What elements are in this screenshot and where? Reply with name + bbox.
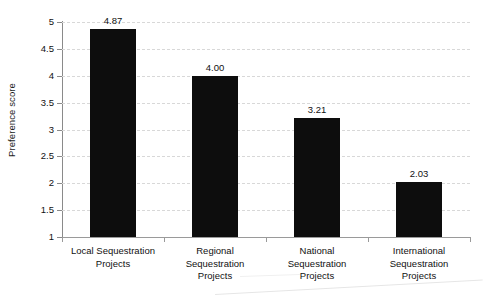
bar-value-label: 4.00 <box>185 62 245 73</box>
y-tick-label: 2 <box>18 177 54 188</box>
x-category-label-line: Projects <box>266 270 368 283</box>
x-category-label-line: International <box>368 245 470 258</box>
bar-value-label: 4.87 <box>83 15 143 26</box>
plot-area: 4.874.003.212.03 <box>62 22 470 237</box>
x-category-label: InternationalSequestrationProjects <box>368 245 470 283</box>
x-tick-mark <box>164 237 165 242</box>
x-category-label: NationalSequestrationProjects <box>266 245 368 283</box>
bar-value-label: 3.21 <box>287 104 347 115</box>
x-tick-mark <box>62 237 63 242</box>
y-tick-label: 1.5 <box>18 204 54 215</box>
bar[interactable] <box>396 182 442 237</box>
bar[interactable] <box>90 29 136 237</box>
y-axis-title: Preference score <box>6 0 24 50</box>
x-category-label: Local SequestrationProjects <box>62 245 164 270</box>
y-tick-label: 3 <box>18 124 54 135</box>
x-category-label-line: National <box>266 245 368 258</box>
x-category-label-line: Regional <box>164 245 266 258</box>
bar-chart: Preference score 11.522.533.544.55 4.874… <box>0 0 485 306</box>
bar[interactable] <box>192 76 238 237</box>
x-category-label-line: Projects <box>62 258 164 271</box>
y-tick-label: 4 <box>18 70 54 81</box>
y-tick-label: 1 <box>18 231 54 242</box>
y-tick-label: 3.5 <box>18 97 54 108</box>
y-tick-label: 2.5 <box>18 150 54 161</box>
y-axis-title-text: Preference score <box>6 50 17 190</box>
x-category-label-line: Sequestration <box>266 258 368 271</box>
x-category-label-line: Sequestration <box>164 258 266 271</box>
x-category-label: RegionalSequestrationProjects <box>164 245 266 283</box>
bar-value-label: 2.03 <box>389 168 449 179</box>
x-category-label-line: Sequestration <box>368 258 470 271</box>
x-tick-mark <box>368 237 369 242</box>
bar[interactable] <box>294 118 340 237</box>
x-category-label-line: Local Sequestration <box>62 245 164 258</box>
x-tick-mark <box>470 237 471 242</box>
x-tick-mark <box>266 237 267 242</box>
